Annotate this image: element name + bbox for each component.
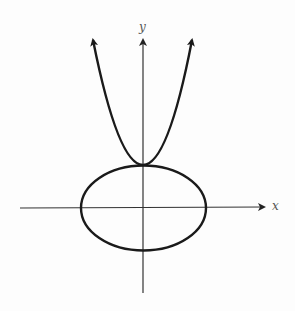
x-axis-label: x (272, 200, 279, 212)
y-axis-label: y (139, 21, 146, 33)
parabola-right-branch (143, 40, 192, 165)
parabola-left-branch (93, 40, 143, 165)
diagram-canvas: y x (0, 0, 295, 311)
x-axis (20, 207, 264, 208)
graph-svg (0, 0, 295, 311)
